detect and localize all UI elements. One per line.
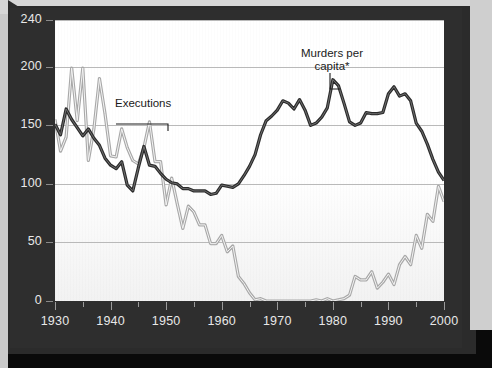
chart-figure: 050100150200240 193019401950196019701980… [0,0,492,368]
annotation-leader [330,73,340,89]
annotation-leader [116,124,168,131]
annotation-leaders [0,0,492,368]
